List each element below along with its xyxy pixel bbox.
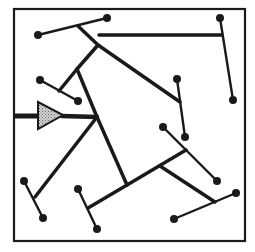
- main-branches: [35, 26, 222, 208]
- branch-segment: [77, 69, 97, 117]
- frame-border: [14, 9, 245, 241]
- terminal-dot-icon: [216, 14, 224, 22]
- diagram-svg: [0, 0, 255, 252]
- branch-segment: [62, 116, 97, 117]
- terminal-dot-icon: [181, 133, 189, 141]
- branch-segment: [97, 117, 127, 185]
- branch-segment: [98, 45, 180, 102]
- dendrite-segment: [24, 181, 43, 218]
- terminal-dot-icon: [74, 97, 82, 105]
- terminal-dot-icon: [232, 189, 240, 197]
- branch-segment: [35, 117, 97, 197]
- dendrite-segment: [220, 18, 233, 100]
- terminal-dot-icon: [103, 14, 111, 22]
- dendrite-segment: [38, 18, 107, 35]
- terminal-dot-icon: [36, 76, 44, 84]
- branch-segment: [59, 69, 77, 91]
- triangle-soma-icon: [38, 102, 63, 129]
- terminal-dot-icon: [213, 177, 221, 185]
- terminal-nodes: [20, 14, 240, 233]
- dendrite-segment: [177, 79, 185, 137]
- terminal-dot-icon: [229, 96, 237, 104]
- terminal-dot-icon: [34, 31, 42, 39]
- dendrite-segments: [24, 18, 236, 229]
- dendrite-segment: [40, 80, 78, 101]
- branching-tree-diagram: [0, 0, 255, 252]
- terminal-dot-icon: [39, 214, 47, 222]
- branch-segment: [88, 185, 127, 208]
- terminal-dot-icon: [173, 75, 181, 83]
- branch-segment: [77, 45, 98, 69]
- branch-segment: [127, 150, 186, 185]
- terminal-dot-icon: [20, 177, 28, 185]
- dendrite-segment: [78, 189, 97, 229]
- branch-segment: [78, 26, 98, 45]
- terminal-dot-icon: [170, 215, 178, 223]
- terminal-dot-icon: [93, 225, 101, 233]
- terminal-dot-icon: [159, 123, 167, 131]
- terminal-dot-icon: [74, 185, 82, 193]
